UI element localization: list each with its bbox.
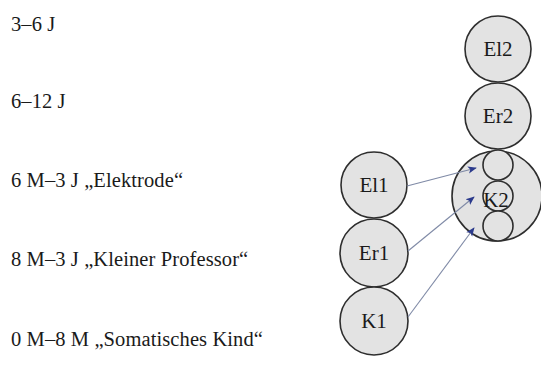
node-k2: K2 [452,150,541,241]
node-er2-label: Er2 [483,104,513,128]
node-el2: El2 [465,16,531,82]
node-k2-label: K2 [483,188,509,212]
node-er2: Er2 [465,83,531,149]
node-k2-inner-circle-top [483,150,513,180]
arrow-k1-to-k2 [408,228,474,317]
node-el2-label: El2 [483,37,512,61]
ego-state-diagram: El2 Er2 K2 El1 Er1 K1 [0,0,541,366]
node-k1: K1 [340,287,408,355]
node-k2-inner-circle-bottom [483,211,513,241]
node-el1-label: El1 [359,173,388,197]
node-er1: Er1 [340,219,408,287]
node-el1: El1 [341,152,407,218]
node-k1-label: K1 [361,309,387,333]
node-er1-label: Er1 [359,241,389,265]
